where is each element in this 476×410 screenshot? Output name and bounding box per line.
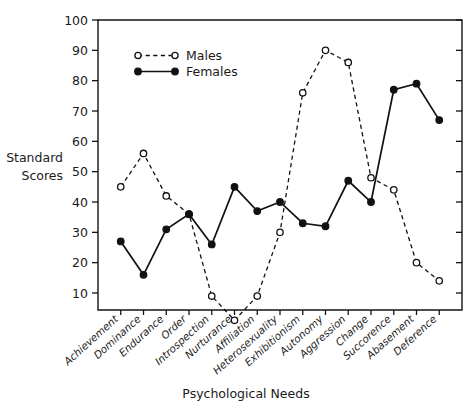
data-point: Males — Exhibitionism: 76 <box>300 90 306 96</box>
data-point: Females — Exhibitionism: 33 <box>299 220 306 227</box>
y-tick-label: 70 <box>72 104 88 119</box>
data-point: Males — Abasement: 20 <box>413 259 419 265</box>
plot-frame <box>98 20 462 310</box>
y-tick-label: 30 <box>72 225 88 240</box>
data-point: Males — Dominance: 56 <box>140 150 146 156</box>
legend-marker-females <box>135 68 142 75</box>
y-tick-label: 50 <box>72 164 88 179</box>
data-point: Males — Autonomy: 90 <box>322 47 328 53</box>
legend-label-females: Females <box>186 64 238 79</box>
y-axis-title-line2: Scores <box>21 168 63 183</box>
data-point: Females — Deference: 67 <box>436 117 443 124</box>
data-point: Females — Autonomy: 32 <box>322 223 329 230</box>
data-point: Females — Change: 40 <box>368 199 375 206</box>
line-chart: 102030405060708090100 AchievementDominan… <box>0 0 476 410</box>
y-axis-title: Standard Scores <box>6 150 63 183</box>
y-axis-ticks <box>92 20 462 293</box>
data-point: Males — Deference: 14 <box>436 278 442 284</box>
data-point: Females — Endurance: 31 <box>163 226 170 233</box>
data-point: Females — Affiliation: 37 <box>254 208 261 215</box>
legend-label-males: Males <box>186 48 222 63</box>
series-females: Females — Achievement: 27Females — Domin… <box>117 80 442 278</box>
y-tick-label: 20 <box>72 255 88 270</box>
data-point: Females — Aggression: 47 <box>345 177 352 184</box>
data-point: Males — Nurturance: 1 <box>231 317 237 323</box>
x-axis-title: Psychological Needs <box>182 386 309 401</box>
data-point: Males — Change: 48 <box>368 175 374 181</box>
y-tick-label: 100 <box>64 13 88 28</box>
x-axis-category-labels: AchievementDominanceEnduranceOrderIntros… <box>60 312 438 377</box>
y-tick-label: 90 <box>72 43 88 58</box>
legend-marker-females-end <box>172 68 179 75</box>
x-axis-ticks <box>121 310 440 315</box>
y-tick-label: 60 <box>72 134 88 149</box>
data-point: Males — Aggression: 86 <box>345 59 351 65</box>
data-point: Females — Introspection: 26 <box>208 241 215 248</box>
data-point: Males — Heterosexuality: 30 <box>277 229 283 235</box>
y-axis-title-line1: Standard <box>6 150 63 165</box>
chart-container: 102030405060708090100 AchievementDominan… <box>0 0 476 410</box>
y-axis-tick-labels: 102030405060708090100 <box>64 13 88 301</box>
data-markers-females: Females — Achievement: 27Females — Domin… <box>117 80 442 278</box>
legend-entry-females: Females <box>135 64 238 79</box>
legend: Males Females <box>135 48 238 79</box>
data-point: Males — Introspection: 9 <box>209 293 215 299</box>
data-point: Males — Achievement: 45 <box>118 184 124 190</box>
data-point: Females — Nurturance: 45 <box>231 184 238 191</box>
y-tick-label: 40 <box>72 195 88 210</box>
legend-marker-males-end <box>172 52 178 58</box>
data-point: Males — Endurance: 42 <box>163 193 169 199</box>
data-point: Females — Succorence: 77 <box>390 86 397 93</box>
y-tick-label: 10 <box>72 286 88 301</box>
data-point: Males — Affiliation: 9 <box>254 293 260 299</box>
data-point: Males — Succorence: 44 <box>391 187 397 193</box>
data-point: Females — Abasement: 79 <box>413 80 420 87</box>
data-point: Females — Dominance: 16 <box>140 272 147 279</box>
legend-entry-males: Males <box>135 48 222 63</box>
y-tick-label: 80 <box>72 73 88 88</box>
data-point: Females — Achievement: 27 <box>117 238 124 245</box>
legend-marker-males <box>135 52 141 58</box>
data-point: Females — Order: 36 <box>186 211 193 218</box>
data-point: Females — Heterosexuality: 40 <box>277 199 284 206</box>
